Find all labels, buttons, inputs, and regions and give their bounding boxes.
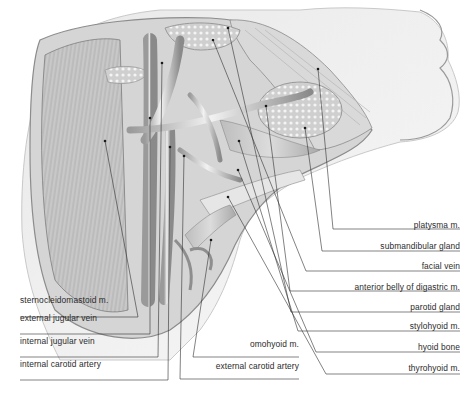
pointer-dot-internal-carotid-artery xyxy=(169,146,172,149)
pointer-dot-platysma xyxy=(317,68,320,71)
label-sternocleidomastoid: sternocleidomastoid m. xyxy=(20,295,108,305)
pointer-dot-external-carotid-artery xyxy=(183,155,186,158)
pointer-dot-facial-vein xyxy=(212,39,215,42)
label-platysma: platysma m. xyxy=(414,220,460,230)
pointer-dot-internal-jugular-vein xyxy=(161,62,164,65)
label-stylohyoid: stylohyoid m. xyxy=(410,321,460,331)
internal-jugular-vessel xyxy=(148,40,151,300)
pointer-dot-omohyoid xyxy=(210,239,213,242)
label-internal-carotid-artery: internal carotid artery xyxy=(20,359,101,369)
label-external-jugular-vein: external jugular vein xyxy=(20,313,97,323)
label-facial-vein: facial vein xyxy=(422,261,460,271)
pointer-dot-submandibular-gland xyxy=(304,127,307,130)
anatomy-figure: platysma m.submandibular glandfacial vei… xyxy=(0,0,469,397)
label-anterior-belly-digastric: anterior belly of digastric m. xyxy=(355,282,460,292)
pointer-dot-thyrohyoid xyxy=(227,196,230,199)
pointer-dot-external-jugular-vein xyxy=(149,117,152,120)
label-submandibular-gland: submandibular gland xyxy=(380,241,460,251)
label-omohyoid: omohyoid m. xyxy=(250,339,299,349)
pointer-dot-hyoid-bone xyxy=(237,169,240,172)
pointer-dot-stylohyoid xyxy=(238,140,241,143)
pointer-dot-anterior-belly-digastric xyxy=(265,105,268,108)
label-parotid-gland: parotid gland xyxy=(410,302,460,312)
pointer-dot-parotid-gland xyxy=(227,27,230,30)
label-external-carotid-artery: external carotid artery xyxy=(216,361,299,371)
label-hyoid-bone: hyoid bone xyxy=(418,342,460,352)
pointer-dot-sternocleidomastoid xyxy=(104,140,107,143)
label-thyrohyoid: thyrohyoid m. xyxy=(408,363,460,373)
label-internal-jugular-vein: internal jugular vein xyxy=(20,336,95,346)
submandibular-gland-shape xyxy=(258,82,342,138)
